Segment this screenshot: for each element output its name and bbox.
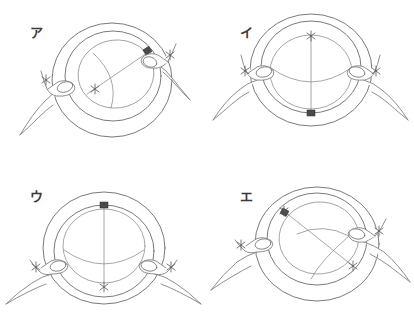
star-mark-bottom-u — [100, 282, 108, 292]
rim-marker-i — [307, 110, 315, 116]
panel-e: エ — [207, 164, 414, 328]
membrane-e — [275, 198, 362, 279]
panel-i-illustration — [207, 0, 414, 164]
star-mark-membrane-a — [91, 84, 99, 94]
panel-u-illustration — [0, 164, 207, 328]
membrane-u — [63, 205, 145, 283]
panel-a: ア — [0, 0, 207, 164]
panel-u: ウ — [0, 164, 207, 328]
left-hand-i — [213, 55, 274, 120]
membrane-a — [74, 35, 159, 113]
panel-i: イ — [207, 0, 414, 164]
membrane-i — [270, 35, 352, 113]
panel-a-illustration — [0, 0, 207, 164]
rim-marker-u — [100, 202, 108, 208]
star-mark-top-i — [307, 31, 315, 41]
star-mark-diagonal-end-e — [349, 261, 357, 271]
panel-e-illustration — [207, 164, 414, 328]
figure-root: ア — [0, 0, 414, 328]
hoop-outer-e — [255, 187, 379, 301]
